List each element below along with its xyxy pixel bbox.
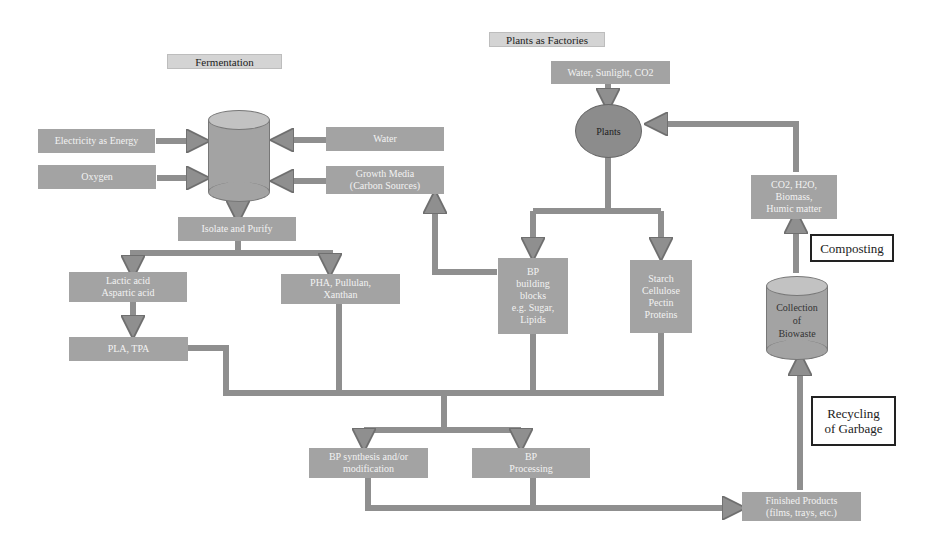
growth-media-line2: (Carbon Sources) [350,180,420,192]
recycling-line1: Recycling [827,406,880,421]
isolate-purify-box: Isolate and Purify [178,217,296,241]
biowaste-line3: Biowaste [766,327,828,340]
bp-processing-line1: BP [525,451,537,463]
finished-products-box: Finished Products (films, trays, etc.) [742,492,861,521]
starch-line3: Pectin [649,297,674,309]
pha-box: PHA, Pullulan, Xanthan [281,274,400,304]
compost-line1: CO2, H2O, [771,179,817,191]
bp-blocks-line4: e.g. Sugar, [512,302,554,314]
biowaste-line2: of [766,314,828,327]
fermentation-title: Fermentation [167,54,282,69]
bp-blocks-line3: blocks [520,290,546,302]
electricity-box: Electricity as Energy [38,129,155,153]
lactic-line1: Lactic acid [106,275,150,287]
biowaste-collection-tank: Collection of Biowaste [766,276,828,360]
synthesis-line1: BP synthesis and/or [329,451,408,463]
starch-line1: Starch [648,273,674,285]
pha-line1: PHA, Pullulan, [310,277,371,289]
finished-line1: Finished Products [766,495,838,507]
lactic-acid-box: Lactic acid Aspartic acid [69,272,187,302]
recycling-label: Recycling of Garbage [811,396,896,446]
oxygen-box: Oxygen [38,165,156,189]
bp-processing-box: BP Processing [472,448,590,478]
lactic-line2: Aspartic acid [101,287,154,299]
compost-outputs-box: CO2, H2O, Biomass, Humic matter [751,175,837,219]
biowaste-line1: Collection [766,301,828,314]
finished-line2: (films, trays, etc.) [766,507,837,519]
bp-building-blocks-box: BP building blocks e.g. Sugar, Lipids [498,258,568,334]
compost-line2: Biomass, [776,191,813,203]
recycling-line2: of Garbage [824,421,882,436]
compost-line3: Humic matter [766,203,821,215]
water-sunlight-co2-box: Water, Sunlight, CO2 [551,61,670,84]
water-box: Water [326,127,444,151]
bp-processing-line2: Processing [509,463,552,475]
synthesis-line2: modification [343,463,394,475]
fermenter-tank [208,110,270,202]
bp-synthesis-box: BP synthesis and/or modification [309,448,428,478]
starch-line4: Proteins [645,309,678,321]
bp-blocks-line5: Lipids [520,314,546,326]
starch-cellulose-box: Starch Cellulose Pectin Proteins [630,260,692,333]
plants-as-factories-title: Plants as Factories [489,32,605,47]
bp-blocks-line1: BP [527,266,539,278]
pla-tpa-box: PLA, TPA [69,337,188,361]
growth-media-box: Growth Media (Carbon Sources) [326,166,444,194]
water-label: Water [373,133,397,145]
starch-line2: Cellulose [642,285,680,297]
composting-label: Composting [810,234,894,262]
bp-blocks-line2: building [516,278,549,290]
plants-node: Plants [575,104,642,158]
pha-line2: Xanthan [324,289,358,301]
growth-media-line1: Growth Media [356,168,415,180]
